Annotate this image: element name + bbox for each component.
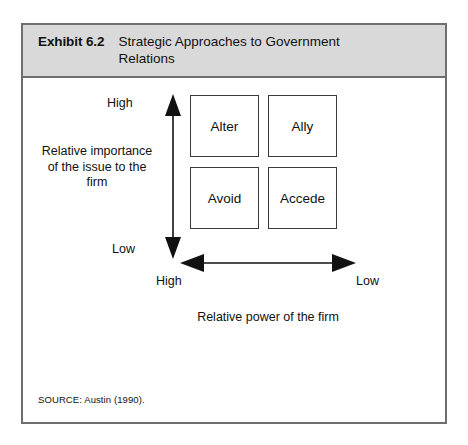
x-axis-title: Relative power of the firm xyxy=(188,310,348,326)
quadrant-cell-bottom-left: Avoid xyxy=(190,167,259,229)
quadrant-label: Avoid xyxy=(208,191,242,206)
quadrant-label: Alter xyxy=(211,119,239,134)
x-axis-high-label: High xyxy=(156,274,182,289)
quadrant-cell-top-right: Ally xyxy=(268,95,337,157)
y-axis-low-label: Low xyxy=(112,242,135,257)
horizontal-axis-arrow xyxy=(180,252,356,274)
x-axis-low-label: Low xyxy=(356,274,379,289)
exhibit-title: Strategic Approaches to Government Relat… xyxy=(118,33,386,67)
y-axis-high-label: High xyxy=(107,96,133,111)
quadrant-label: Accede xyxy=(280,191,325,206)
source-note: SOURCE: Austin (1990). xyxy=(38,394,145,406)
diagram-canvas: High Low High Low Relative importance of… xyxy=(23,78,445,424)
exhibit-header: Exhibit 6.2 Strategic Approaches to Gove… xyxy=(23,25,445,78)
quadrant-cell-top-left: Alter xyxy=(190,95,259,157)
quadrant-cell-bottom-right: Accede xyxy=(268,167,337,229)
exhibit-number-label: Exhibit 6.2 xyxy=(38,33,104,50)
y-axis-title: Relative importance of the issue to the … xyxy=(39,144,155,191)
quadrant-matrix: Alter Ally Avoid Accede xyxy=(190,95,338,247)
vertical-axis-arrow xyxy=(162,94,184,259)
exhibit-frame: Exhibit 6.2 Strategic Approaches to Gove… xyxy=(21,23,447,424)
quadrant-label: Ally xyxy=(292,119,314,134)
